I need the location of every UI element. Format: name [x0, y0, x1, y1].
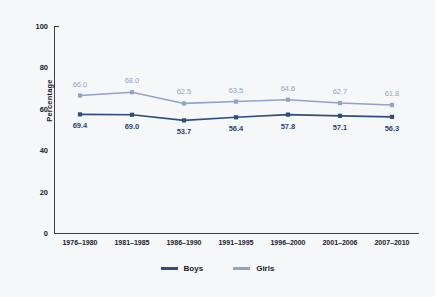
- data-point-marker: [234, 115, 238, 119]
- y-axis-tick-label: 20: [26, 187, 48, 196]
- data-point-marker: [286, 98, 290, 102]
- data-label-boys: 56.4: [229, 124, 244, 133]
- data-point-marker: [78, 93, 82, 97]
- legend-item-boys[interactable]: Boys: [161, 264, 204, 273]
- data-point-marker: [390, 115, 394, 119]
- data-point-marker: [78, 112, 82, 116]
- data-point-marker: [234, 99, 238, 103]
- data-label-girls: 66.0: [73, 80, 88, 89]
- data-point-marker: [390, 103, 394, 107]
- data-point-marker: [130, 90, 134, 94]
- legend-item-girls[interactable]: Girls: [233, 264, 274, 273]
- x-axis-tick-label: 1996–2000: [270, 239, 305, 246]
- data-point-marker: [182, 101, 186, 105]
- y-axis-tick-label: 40: [26, 146, 48, 155]
- chart-legend: BoysGirls: [0, 264, 435, 273]
- y-axis-tick-label: 0: [26, 229, 48, 238]
- legend-swatch-icon: [233, 267, 250, 271]
- y-axis-tick-label: 80: [26, 63, 48, 72]
- legend-label: Girls: [256, 264, 274, 273]
- data-label-girls: 68.0: [125, 76, 140, 85]
- data-label-girls: 63.5: [229, 86, 244, 95]
- data-label-boys: 69.4: [73, 121, 88, 130]
- x-axis-line: [54, 233, 419, 234]
- data-label-boys: 53.7: [177, 127, 192, 136]
- data-label-girls: 61.8: [385, 89, 400, 98]
- legend-swatch-icon: [161, 267, 178, 271]
- legend-label: Boys: [184, 264, 204, 273]
- data-point-marker: [130, 113, 134, 117]
- data-label-boys: 69.0: [125, 122, 140, 131]
- data-point-marker: [338, 101, 342, 105]
- y-axis-tick-label: 60: [26, 104, 48, 113]
- data-point-marker: [286, 113, 290, 117]
- x-axis-tick-label: 1981–1985: [114, 239, 149, 246]
- x-axis-tick-label: 1976–1980: [62, 239, 97, 246]
- data-point-marker: [182, 118, 186, 122]
- x-axis-tick-label: 2007–2010: [374, 239, 409, 246]
- data-label-girls: 62.5: [177, 87, 192, 96]
- line-chart: Percentage 020406080100 1976–19801981–19…: [0, 0, 435, 297]
- x-axis-tick-label: 2001–2006: [322, 239, 357, 246]
- y-axis-tick-labels: 020406080100: [22, 0, 48, 297]
- data-label-boys: 57.1: [333, 123, 348, 132]
- x-axis-tick-label: 1986–1990: [166, 239, 201, 246]
- x-axis-tick-label: 1991–1995: [218, 239, 253, 246]
- data-label-girls: 64.6: [281, 84, 296, 93]
- data-label-boys: 56.3: [385, 124, 400, 133]
- data-point-marker: [338, 114, 342, 118]
- data-label-boys: 57.8: [281, 122, 296, 131]
- y-axis-tick-label: 100: [26, 22, 48, 31]
- data-label-girls: 62.7: [333, 87, 348, 96]
